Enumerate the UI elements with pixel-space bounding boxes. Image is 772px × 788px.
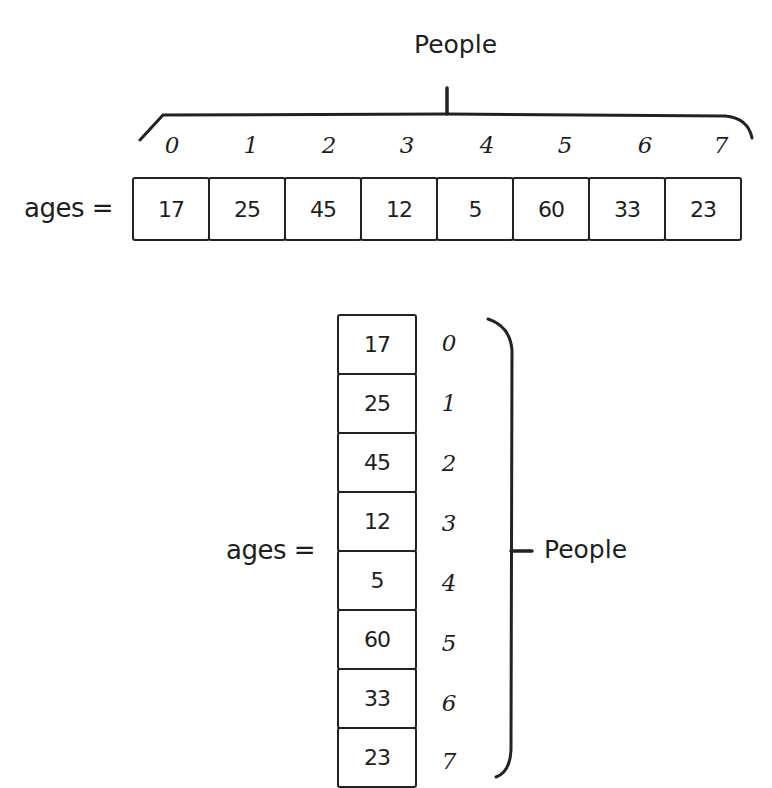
index-label: 2 [434, 450, 464, 476]
array-cell: 17 [132, 177, 210, 241]
top-group-label: People [414, 30, 497, 59]
horizontal-array: 17 25 45 12 5 60 33 23 [132, 177, 742, 241]
right-brace [488, 319, 532, 777]
index-label: 1 [236, 132, 266, 158]
index-label: 7 [434, 748, 464, 774]
index-label: 6 [434, 690, 464, 716]
array-cell: 17 [337, 314, 417, 375]
array-cell: 45 [284, 177, 362, 241]
index-label: 5 [550, 132, 580, 158]
side-group-label: People [544, 535, 627, 564]
vertical-array: 17 25 45 12 5 60 33 23 [337, 314, 419, 788]
array-cell: 25 [208, 177, 286, 241]
index-label: 2 [314, 132, 344, 158]
array-cell: 23 [664, 177, 742, 241]
array-cell: 60 [337, 609, 417, 670]
index-label: 3 [392, 132, 422, 158]
index-label: 6 [630, 132, 660, 158]
array-cell: 25 [337, 373, 417, 434]
top-brace [140, 88, 752, 140]
index-label: 7 [706, 132, 736, 158]
array-cell: 5 [436, 177, 514, 241]
array-cell: 23 [337, 727, 417, 788]
top-variable-label: ages = [24, 193, 113, 223]
array-cell: 33 [588, 177, 666, 241]
array-cell: 12 [337, 491, 417, 552]
index-label: 5 [434, 630, 464, 656]
array-cell: 5 [337, 550, 417, 611]
index-label: 3 [434, 510, 464, 536]
array-cell: 12 [360, 177, 438, 241]
index-label: 0 [434, 330, 464, 356]
index-label: 4 [472, 132, 502, 158]
index-label: 4 [434, 570, 464, 596]
bottom-variable-label: ages = [226, 535, 315, 565]
index-label: 1 [434, 390, 464, 416]
array-cell: 45 [337, 432, 417, 493]
array-cell: 60 [512, 177, 590, 241]
array-cell: 33 [337, 668, 417, 729]
index-label: 0 [157, 132, 187, 158]
